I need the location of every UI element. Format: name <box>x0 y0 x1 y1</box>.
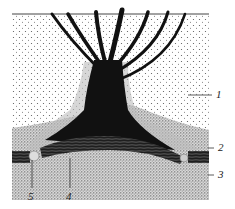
label-1: 1 <box>216 89 222 100</box>
label-5: 5 <box>28 191 34 202</box>
left-nodule <box>29 151 39 161</box>
diagram-figure <box>0 0 235 209</box>
right-nodule <box>180 154 188 162</box>
label-2: 2 <box>218 142 224 153</box>
right-strand <box>188 151 209 163</box>
left-strand <box>12 151 30 163</box>
label-4: 4 <box>66 191 72 202</box>
label-3: 3 <box>218 169 224 180</box>
